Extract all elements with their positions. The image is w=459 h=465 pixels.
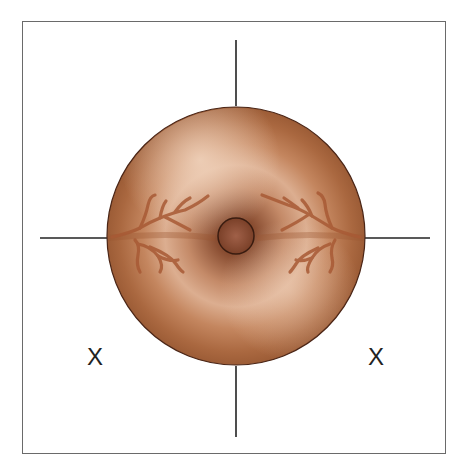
external-os bbox=[218, 218, 254, 254]
left-x-marker: X bbox=[87, 345, 103, 369]
cervix-diagram bbox=[0, 0, 459, 465]
right-x-marker: X bbox=[368, 345, 384, 369]
